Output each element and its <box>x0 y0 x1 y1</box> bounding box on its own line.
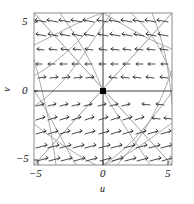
x-tick-label-minus5: −5 <box>29 167 42 179</box>
y-tick-label-0: 0 <box>22 84 27 96</box>
y-axis-title: v <box>1 87 12 91</box>
y-tick-label-minus5: −5 <box>16 152 29 164</box>
phase-portrait-figure: 5 0 −5 −5 0 5 v u <box>0 0 194 204</box>
equilibrium-point-marker <box>100 88 106 94</box>
x-tick-label-0: 0 <box>100 167 105 179</box>
y-tick-label-5: 5 <box>22 15 27 27</box>
x-tick-label-5: 5 <box>165 167 170 179</box>
x-axis-title: u <box>100 183 105 194</box>
